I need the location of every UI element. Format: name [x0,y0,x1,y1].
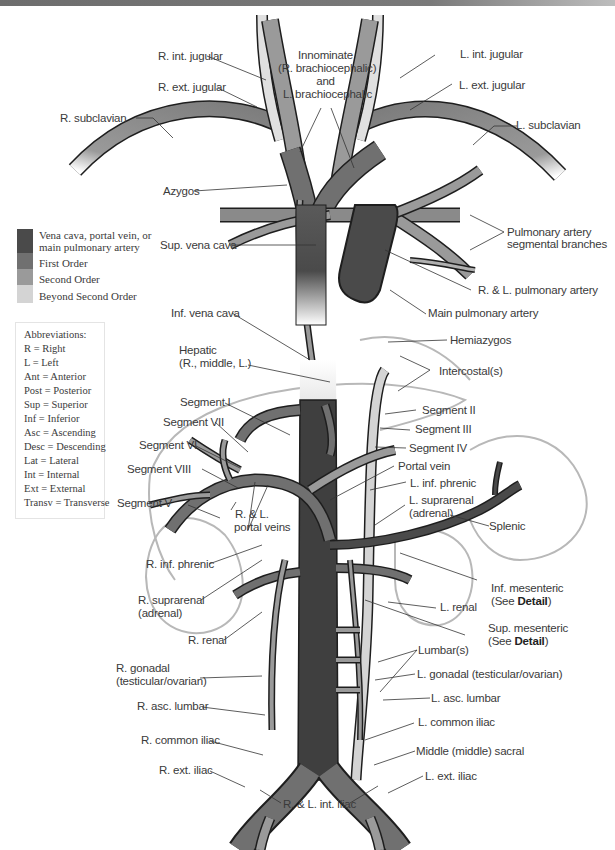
legend-label-first-order: First Order [39,257,88,269]
label-segment-iii: Segment III [415,423,472,436]
label-inf-vena-cava: Inf. vena cava [171,307,240,320]
label-l-common-iliac: L. common iliac [418,716,495,729]
label-l-ext-iliac: L. ext. iliac [425,770,477,783]
label-segment-iv: Segment IV [409,442,467,455]
label-innominate-4: L. brachiocephalic [280,88,375,101]
label-hepatic-2: (R., middle, L.) [179,357,251,370]
abbreviation-item: Lat = Lateral [24,455,79,466]
label-l-inf-phrenic: L. inf. phrenic [410,477,476,490]
label-l-subclavian: L. subclavian [516,119,581,132]
label-azygos: Azygos [163,185,200,198]
abbreviation-item: Ext = External [24,483,85,494]
label-sup-vena-cava: Sup. vena cava [160,239,236,252]
label-rl-portal-2: portal veins [234,521,290,534]
label-hemiazygos: Hemiazygos [450,334,511,347]
label-l-suprarenal-2: (adrenal) [409,507,453,520]
abbreviation-item: L = Left [24,357,59,368]
label-segment-ii: Segment II [422,404,476,417]
label-r-gonadal-2: (testicular/ovarian) [116,675,207,688]
legend-swatch-second-order [17,269,33,285]
label-l-suprarenal-1: L. suprarenal [409,494,474,507]
label-sup-mesenteric-2: (See Detail) [488,635,548,648]
abbreviation-item: R = Right [24,343,66,354]
label-rl-int-iliac: R. & L. int. iliac [283,798,356,811]
legend-label-beyond: Beyond Second Order [39,290,137,302]
legend-label-second-order: Second Order [39,273,100,285]
label-inf-mesenteric-1: Inf. mesenteric [491,582,563,595]
label-rl-pulmonary-artery: R. & L. pulmonary artery [478,284,598,297]
label-lumbars: Lumbar(s) [418,644,469,657]
label-r-gonadal-1: R. gonadal [116,662,170,675]
label-r-suprarenal-1: R. suprarenal [138,594,204,607]
label-l-gonadal: L. gonadal (testicular/ovarian) [417,668,562,681]
abbreviations-box: Abbreviations: R = Right L = Left Ant = … [15,322,105,519]
abbreviation-item: Post = Posterior [24,385,91,396]
label-pulmonary-segmental-2: segmental branches [507,238,607,251]
label-l-ext-jugular: L. ext. jugular [459,79,525,92]
label-hepatic-1: Hepatic [179,344,217,357]
label-segment-viii: Segment VIII [127,463,191,476]
label-splenic: Splenic [489,520,525,533]
label-r-subclavian: R. subclavian [60,112,126,125]
label-portal-vein: Portal vein [398,460,450,473]
label-l-asc-lumbar: L. asc. lumbar [431,692,500,705]
label-r-suprarenal-2: (adrenal) [138,607,182,620]
label-main-pulmonary-artery: Main pulmonary artery [428,307,538,320]
abbreviation-item: Ant = Anterior [24,371,86,382]
subclavian-veins [75,109,560,175]
label-segment-vi: Segment VI [139,439,197,452]
label-innominate-3: and [308,75,343,88]
abbreviation-item: Inf = Inferior [24,413,79,424]
abbreviations-title: Abbreviations: [24,329,86,340]
abbreviation-item: Asc = Ascending [24,427,96,438]
label-intercostals: Intercostal(s) [439,365,503,378]
abbreviation-item: Sup = Superior [24,399,88,410]
label-sup-mesenteric-1: Sup. mesenteric [488,622,568,635]
legend-swatch-beyond [17,285,33,303]
label-r-ext-jugular: R. ext. jugular [158,81,226,94]
superior-vena-cava [296,205,326,325]
label-segment-i: Segment I [180,396,231,409]
label-r-int-jugular: R. int. jugular [158,50,223,63]
label-r-common-iliac: R. common iliac [141,734,220,747]
label-segment-vii: Segment VII [163,416,224,429]
abbreviation-item: Int = Internal [24,469,79,480]
label-middle-sacral: Middle (middle) sacral [416,745,524,758]
label-innominate-2: (R. brachiocephalic) [278,62,373,75]
label-r-inf-phrenic: R. inf. phrenic [146,558,214,571]
label-rl-portal-1: R. & L. [235,508,269,521]
legend-label-main-1: Vena cava, portal vein, or [39,229,151,241]
legend-swatch-main [17,229,33,253]
abbreviation-item: Desc = Descending [24,441,106,452]
label-r-ext-iliac: R. ext. iliac [159,764,213,777]
label-r-renal: R. renal [188,634,227,647]
label-innominate-1: Innominate [288,49,363,62]
label-l-renal: L. renal [440,601,477,614]
label-r-asc-lumbar: R. asc. lumbar [137,700,208,713]
abbreviation-item: Transv = Transverse [24,497,109,508]
label-segment-v: Segment V [117,497,172,510]
legend-swatch-first-order [17,253,33,269]
label-inf-mesenteric-2: (See Detail) [491,595,551,608]
legend-label-main-2: main pulmonary artery [39,241,140,253]
label-l-int-jugular: L. int. jugular [460,48,523,61]
